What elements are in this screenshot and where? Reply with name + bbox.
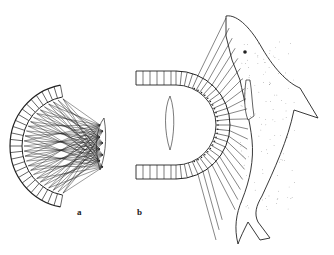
- dolphin-speckle: [287, 137, 288, 138]
- projection-ray: [212, 165, 235, 210]
- dolphin-speckle: [286, 111, 287, 112]
- dolphin-speckle: [262, 200, 263, 201]
- dolphin-speckle: [284, 160, 285, 161]
- dolphin-speckle: [241, 105, 242, 106]
- array-segment: [10, 139, 22, 140]
- dolphin-speckle: [250, 116, 251, 117]
- dolphin-speckle: [246, 206, 247, 207]
- dolphin-speckle: [285, 73, 286, 74]
- dolphin-speckle: [266, 149, 267, 150]
- array-segment: [36, 187, 43, 197]
- dolphin-speckle: [247, 88, 248, 89]
- array-segment: [16, 120, 27, 125]
- sensor-dot: [207, 97, 209, 99]
- array-segment: [60, 85, 62, 97]
- projection-ray: [229, 109, 247, 114]
- dolphin-speckle: [292, 170, 293, 171]
- dolphin-speckle: [245, 107, 246, 108]
- dolphin-speckle: [244, 93, 245, 94]
- dolphin-speckle: [293, 80, 294, 81]
- dolphin-speckle: [273, 120, 274, 121]
- dolphin-speckle: [250, 170, 251, 171]
- array-segment: [11, 133, 23, 136]
- sensor-dot: [214, 140, 216, 142]
- dolphin-speckle: [259, 92, 260, 93]
- dolphin-speckle: [292, 197, 293, 198]
- sensor-dot: [193, 88, 195, 90]
- dolphin-speckle: [254, 182, 255, 183]
- dolphin-speckle: [277, 199, 278, 200]
- dolphin-speckle: [288, 54, 289, 55]
- dolphin-speckle: [242, 63, 243, 64]
- dolphin-speckle: [248, 156, 249, 157]
- projection-ray: [220, 68, 241, 93]
- dolphin-speckle: [281, 100, 282, 101]
- array-segment: [213, 141, 226, 147]
- dolphin-speckle: [275, 47, 276, 48]
- array-segment: [42, 190, 48, 200]
- dolphin-speckle: [258, 63, 259, 64]
- small-dolphin-icon: [166, 96, 174, 150]
- array-segment: [31, 184, 39, 193]
- ray-line: [31, 122, 103, 131]
- dolphin-speckle: [259, 117, 260, 118]
- dolphin-speckle: [261, 130, 262, 131]
- ray-line: [37, 149, 100, 179]
- dolphin-speckle: [270, 101, 271, 102]
- dolphin-speckle: [240, 142, 241, 143]
- dolphin-speckle: [277, 175, 278, 176]
- array-segment: [211, 145, 223, 152]
- dolphin-speckle: [269, 53, 270, 54]
- array-segment: [16, 167, 27, 172]
- dolphin-speckle: [270, 83, 271, 84]
- array-segment: [19, 171, 29, 177]
- projection-ray: [225, 147, 244, 169]
- array-segment: [192, 76, 198, 89]
- dolphin-speckle: [266, 206, 267, 207]
- array-segment: [184, 72, 187, 86]
- dolphin-speckle: [276, 95, 277, 96]
- array-segment: [31, 99, 39, 108]
- projection-ray: [227, 142, 246, 160]
- array-segment: [54, 194, 57, 205]
- sensor-dot: [212, 144, 214, 146]
- sensor-dot: [217, 128, 219, 130]
- array-segment: [213, 103, 226, 109]
- dolphin-speckle: [274, 135, 275, 136]
- dolphin-speckle: [255, 85, 256, 86]
- sensor-dot: [207, 151, 209, 153]
- dolphin-speckle: [258, 55, 259, 56]
- ray-line: [49, 104, 100, 125]
- dolphin-speckle: [279, 59, 280, 60]
- array-segment: [184, 164, 187, 178]
- panel-label-b: b: [137, 207, 142, 217]
- dolphin-speckle: [263, 82, 264, 83]
- dolphin-speckle: [263, 74, 264, 75]
- dolphin-speckle: [278, 191, 279, 192]
- dolphin-speckle: [259, 136, 260, 137]
- sensor-dot: [197, 159, 199, 161]
- dolphin-speckle: [279, 162, 280, 163]
- dolphin-eye-icon: [243, 50, 247, 54]
- dolphin-speckle: [267, 153, 268, 154]
- dolphin-speckle: [287, 79, 288, 80]
- sensor-dot: [215, 137, 217, 139]
- dolphin-speckle: [273, 109, 274, 110]
- dolphin-speckle: [267, 209, 268, 210]
- dolphin-speckle: [277, 198, 278, 199]
- dolphin-speckle: [265, 119, 266, 120]
- array-segment: [19, 115, 29, 121]
- dolphin-speckle: [283, 119, 284, 120]
- sensor-dot: [201, 92, 203, 94]
- projection-ray: [230, 125, 248, 129]
- projection-ray: [230, 131, 248, 139]
- sensor-dot: [204, 94, 206, 96]
- sensor-dot: [217, 124, 219, 126]
- array-segment: [188, 163, 192, 176]
- dolphin-speckle: [245, 63, 246, 64]
- sensor-dot: [197, 90, 199, 92]
- dolphin-speckle: [247, 205, 248, 206]
- ray-line: [37, 113, 100, 125]
- dolphin-speckle: [283, 75, 284, 76]
- dolphin-speckle: [241, 202, 242, 203]
